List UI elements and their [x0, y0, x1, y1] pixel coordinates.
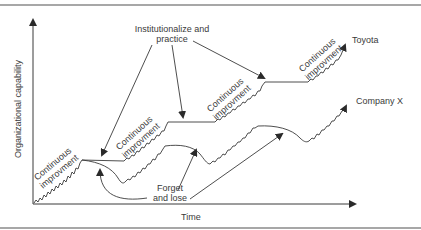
- x-axis-label: Time: [181, 212, 201, 222]
- companyx-decline-3: [258, 126, 309, 142]
- series-label-toyota: Toyota: [352, 35, 379, 45]
- forget-line-1: Forget: [145, 183, 195, 193]
- companyx-decline-1: [82, 160, 125, 183]
- companyx-step-2: [210, 126, 258, 164]
- companyx-step-3: [309, 106, 346, 141]
- institutionalize-callout: Institutionalize and practice: [132, 24, 212, 44]
- forget-arrow-3: [190, 134, 282, 199]
- institutionalize-line-2: practice: [132, 34, 212, 44]
- forget-arrow-1: [100, 170, 147, 199]
- forget-callout: Forget and lose: [145, 183, 195, 203]
- forget-line-2: and lose: [145, 193, 195, 203]
- y-axis-label: Organizational capability: [13, 60, 23, 158]
- inst-arrow-3: [193, 41, 264, 78]
- diagram-frame: Organizational capability Time Instituti…: [0, 0, 421, 230]
- institutionalize-line-1: Institutionalize and: [132, 24, 212, 34]
- inst-arrow-2: [172, 45, 183, 117]
- companyx-decline-2: [165, 145, 210, 164]
- series-label-company-x: Company X: [356, 96, 403, 106]
